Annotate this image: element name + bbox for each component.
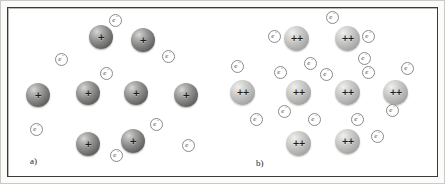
- ion-charge-label: +: [129, 137, 136, 146]
- metal-ion: ++: [335, 26, 360, 51]
- metal-ion: +: [26, 83, 50, 107]
- ion-charge-label: ++: [236, 88, 248, 97]
- ion-charge-label: +: [84, 89, 91, 98]
- ion-charge-label: +: [97, 33, 104, 42]
- electron-label: e−: [374, 133, 380, 140]
- free-electron: e−: [182, 139, 195, 152]
- metal-ion: ++: [286, 80, 311, 105]
- free-electron: e−: [326, 11, 339, 24]
- metal-ion: ++: [383, 80, 408, 105]
- free-electron: e−: [100, 67, 113, 80]
- ion-charge-label: ++: [341, 88, 353, 97]
- electron-label: e−: [253, 116, 259, 123]
- panel-label-a: a): [30, 156, 37, 166]
- free-electron: e−: [351, 113, 364, 126]
- free-electron: e−: [362, 66, 375, 79]
- electron-label: e−: [33, 126, 39, 133]
- electron-label: e−: [354, 116, 360, 123]
- free-electron: e−: [274, 66, 287, 79]
- panel-label-b: b): [256, 158, 264, 168]
- electron-label: e−: [58, 56, 64, 63]
- metal-ion: +: [89, 25, 113, 49]
- electron-label: e−: [365, 33, 371, 40]
- free-electron: e−: [358, 52, 371, 65]
- electron-label: e−: [153, 121, 159, 128]
- electron-label: e−: [311, 116, 317, 123]
- ion-charge-label: +: [132, 89, 139, 98]
- free-electron: e−: [231, 60, 244, 73]
- free-electron: e−: [30, 123, 43, 136]
- electron-label: e−: [271, 33, 277, 40]
- electron-label: e−: [365, 69, 371, 76]
- free-electron: e−: [55, 53, 68, 66]
- free-electron: e−: [362, 30, 375, 43]
- metal-ion: ++: [335, 80, 360, 105]
- metal-ion: +: [121, 129, 145, 153]
- free-electron: e−: [278, 105, 291, 118]
- free-electron: e−: [162, 50, 175, 63]
- electron-label: e−: [404, 65, 410, 72]
- electron-label: e−: [112, 17, 118, 24]
- electron-label: e−: [277, 69, 283, 76]
- free-electron: e−: [268, 30, 281, 43]
- electron-label: e−: [165, 53, 171, 60]
- free-electron: e−: [386, 104, 399, 117]
- ion-charge-label: ++: [292, 88, 304, 97]
- panel-a: ++++++++e−e−e−e−e−e−e−e−a): [8, 8, 223, 178]
- electron-label: e−: [329, 14, 335, 21]
- free-electron: e−: [401, 62, 414, 75]
- ion-charge-label: ++: [389, 88, 401, 97]
- panel-b: ++++++++++++++++e−e−e−e−e−e−e−e−e−e−e−e−…: [223, 8, 439, 178]
- free-electron: e−: [371, 130, 384, 143]
- electron-label: e−: [361, 55, 367, 62]
- metallic-bonding-figure: ++++++++e−e−e−e−e−e−e−e−a) +++++++++++++…: [0, 0, 445, 184]
- ion-charge-label: ++: [341, 137, 353, 146]
- free-electron: e−: [110, 149, 123, 162]
- electron-label: e−: [389, 107, 395, 114]
- free-electron: e−: [308, 113, 321, 126]
- ion-charge-label: ++: [292, 139, 304, 148]
- electron-label: e−: [323, 71, 329, 78]
- electron-label: e−: [185, 142, 191, 149]
- free-electron: e−: [304, 57, 317, 70]
- metal-ion: ++: [230, 80, 255, 105]
- free-electron: e−: [150, 118, 163, 131]
- ion-charge-label: +: [139, 36, 146, 45]
- figure-frame: ++++++++e−e−e−e−e−e−e−e−a) +++++++++++++…: [7, 7, 438, 177]
- electron-label: e−: [103, 70, 109, 77]
- ion-charge-label: ++: [290, 34, 302, 43]
- metal-ion: +: [124, 81, 148, 105]
- electron-label: e−: [234, 63, 240, 70]
- ion-charge-label: +: [34, 91, 41, 100]
- metal-ion: ++: [284, 26, 309, 51]
- electron-label: e−: [281, 108, 287, 115]
- metal-ion: ++: [286, 131, 311, 156]
- metal-ion: +: [174, 83, 198, 107]
- free-electron: e−: [250, 113, 263, 126]
- metal-ion: +: [131, 28, 155, 52]
- ion-charge-label: ++: [341, 34, 353, 43]
- electron-label: e−: [307, 60, 313, 67]
- ion-charge-label: +: [84, 140, 91, 149]
- free-electron: e−: [320, 68, 333, 81]
- electron-label: e−: [113, 152, 119, 159]
- free-electron: e−: [109, 14, 122, 27]
- metal-ion: +: [76, 132, 100, 156]
- metal-ion: +: [76, 81, 100, 105]
- metal-ion: ++: [335, 129, 360, 154]
- ion-charge-label: +: [182, 91, 189, 100]
